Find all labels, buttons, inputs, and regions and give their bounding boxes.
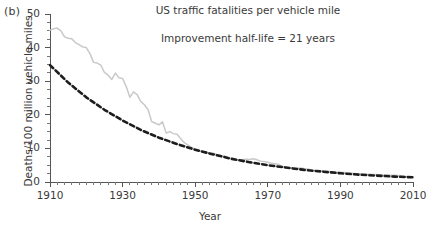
x-tick-label: 1930 xyxy=(101,189,145,201)
axes xyxy=(45,14,413,187)
x-tick-label: 1990 xyxy=(318,189,362,201)
data-series-layer xyxy=(50,28,413,177)
y-tick-label: 50 xyxy=(10,7,40,19)
y-tick-label: 30 xyxy=(10,74,40,86)
x-tick-label: 1950 xyxy=(173,189,217,201)
series-2-path xyxy=(50,65,413,177)
y-tick-label: 40 xyxy=(10,41,40,53)
x-tick-label: 1970 xyxy=(246,189,290,201)
x-tick-label: 1910 xyxy=(28,189,72,201)
chart-panel: (b) US traffic fatalities per vehicle mi… xyxy=(0,0,429,226)
x-tick-label: 2010 xyxy=(391,189,429,201)
y-tick-label: 20 xyxy=(10,108,40,120)
y-tick-label: 0 xyxy=(10,175,40,187)
y-tick-label: 10 xyxy=(10,141,40,153)
series-1-path xyxy=(50,28,413,177)
